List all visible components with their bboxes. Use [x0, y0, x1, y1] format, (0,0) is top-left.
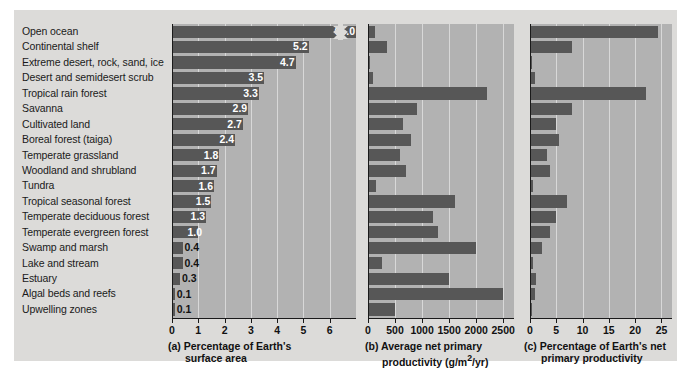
x-tick-label: 15: [603, 324, 615, 336]
y-axis-spine-b: [368, 24, 369, 318]
category-label: Temperate grassland: [22, 148, 170, 163]
bar: [368, 180, 376, 192]
x-tick: [556, 319, 557, 323]
bar-row: [530, 39, 672, 54]
bar-value-label: 1.6: [185, 179, 213, 194]
bar-row: [530, 70, 672, 85]
bar: [172, 257, 183, 269]
bar-row: [530, 86, 672, 101]
x-tick: [172, 319, 173, 323]
bar: [530, 134, 559, 146]
x-tick-label: 5: [553, 324, 559, 336]
x-tick: [225, 319, 226, 323]
panel-tag-c: (c): [524, 340, 540, 352]
bar-rows-c: [530, 24, 672, 318]
y-axis-spine-c: [530, 24, 531, 318]
bar: [368, 87, 487, 99]
category-label: Estuary: [22, 271, 170, 286]
bar-row: [368, 70, 514, 85]
bar-row: [368, 132, 514, 147]
bar-row: [368, 55, 514, 70]
bar: [368, 118, 403, 130]
x-tick-label: 1: [195, 324, 201, 336]
category-label: Tundra: [22, 178, 170, 193]
bar-value-label: 1.3: [177, 209, 205, 224]
bar: [530, 242, 542, 254]
ecosystem-productivity-figure: Open oceanContinental shelfExtreme deser…: [0, 0, 691, 373]
bar-value-label: 1.7: [188, 163, 216, 178]
bar: [368, 273, 449, 285]
bar-row: [530, 302, 672, 317]
bar-row: [172, 117, 356, 132]
bar-row: [530, 209, 672, 224]
x-tick: [530, 319, 531, 323]
bar-value-label: 2.9: [219, 101, 247, 116]
bar: [368, 195, 455, 207]
bar: [368, 303, 395, 315]
bar-value-label: 2.4: [206, 132, 234, 147]
x-tick-label: 1000: [410, 324, 433, 336]
bar-row: [368, 271, 514, 286]
category-label: Desert and semidesert scrub: [22, 70, 170, 85]
bar: [368, 26, 375, 38]
bar: [530, 41, 572, 53]
bar-value-label: 1.8: [190, 148, 218, 163]
bar: [368, 288, 503, 300]
bar-row: [530, 178, 672, 193]
bar: [530, 195, 567, 207]
bar: [172, 273, 180, 285]
bar-row: [530, 194, 672, 209]
x-tick: [251, 319, 252, 323]
panel-caption-line2-c: primary productivity: [524, 352, 689, 365]
bar-rows-b: [368, 24, 514, 318]
bar-row: [368, 302, 514, 317]
category-label: Tropical seasonal forest: [22, 194, 170, 209]
panel-caption-line1-a: Percentage of Earth's: [184, 340, 292, 352]
plot-area-c: [530, 24, 672, 318]
category-label: Open ocean: [22, 24, 170, 39]
bar: [368, 165, 406, 177]
x-tick-label: 1500: [437, 324, 460, 336]
category-label: Cultivated land: [22, 117, 170, 132]
category-label: Swamp and marsh: [22, 240, 170, 255]
bar-row: [530, 240, 672, 255]
bar-row: [368, 256, 514, 271]
bar-row: [368, 178, 514, 193]
bar-row: [172, 39, 356, 54]
x-tick: [368, 319, 369, 323]
x-tick-label: 500: [386, 324, 404, 336]
x-tick: [503, 319, 504, 323]
bar-row: [368, 194, 514, 209]
bar-value-label: 5.2: [280, 39, 308, 54]
bar-row: [530, 286, 672, 301]
bar-row: [368, 286, 514, 301]
bar: [530, 118, 556, 130]
axis-break-zigzag: [333, 26, 338, 39]
x-tick-label: 0: [527, 324, 533, 336]
x-axis-line-a: [172, 318, 356, 319]
bar-row: [368, 148, 514, 163]
x-tick-label: 0: [365, 324, 371, 336]
x-tick: [395, 319, 396, 323]
bar: [368, 103, 417, 115]
bar-value-label: 4.7: [267, 55, 295, 70]
bar-row: [368, 117, 514, 132]
x-tick-label: 5: [301, 324, 307, 336]
x-tick-label: 0: [169, 324, 175, 336]
y-axis-spine-a: [172, 24, 173, 318]
bar: [530, 211, 556, 223]
category-label: Woodland and shrubland: [22, 163, 170, 178]
bar-row: [172, 55, 356, 70]
category-label: Boreal forest (taiga): [22, 132, 170, 147]
bar-value-label: 1.0: [174, 225, 202, 240]
x-tick: [609, 319, 610, 323]
bar: [172, 242, 183, 254]
x-tick: [449, 319, 450, 323]
category-label: Lake and stream: [22, 256, 170, 271]
bar-value-label: 3.5: [235, 70, 263, 85]
x-tick-label: 2000: [464, 324, 487, 336]
x-tick: [303, 319, 304, 323]
bar: [530, 165, 550, 177]
bar-value-label: 0.1: [177, 287, 205, 302]
x-tick: [330, 319, 331, 323]
